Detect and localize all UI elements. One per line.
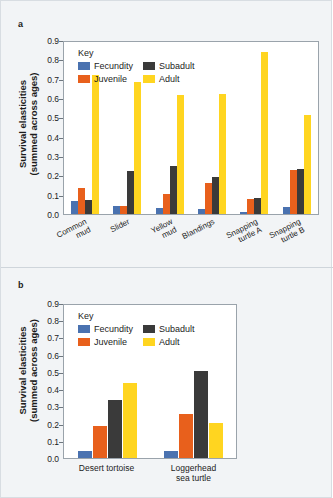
y-tick-label: 0.7 [47, 76, 59, 84]
bar [290, 170, 297, 214]
bar [205, 183, 212, 214]
bar [120, 206, 127, 214]
legend-item: Adult [143, 74, 195, 84]
panel-b-x-tick-labels: Desert tortoiseLoggerheadsea turtle [63, 463, 237, 483]
legend-label: Fecundity [94, 324, 133, 334]
legend-items: FecunditySubadultJuvenileAdult [78, 61, 195, 84]
y-tick-mark [59, 176, 63, 177]
panel-a-legend: Key FecunditySubadultJuvenileAdult [78, 48, 195, 84]
bar [254, 198, 261, 214]
legend-label: Adult [159, 337, 180, 347]
bar [113, 206, 120, 214]
panel-a-x-tick-labels: CommonmudSliderYellowmudBlandingsSnappin… [63, 217, 319, 261]
y-tick-label: 0.8 [47, 317, 59, 325]
y-tick-mark [59, 138, 63, 139]
y-tick-mark [59, 425, 63, 426]
legend-label: Fecundity [94, 61, 133, 71]
legend-items: FecunditySubadultJuvenileAdult [78, 324, 195, 347]
panel-b: b Survival elasticities (summed across a… [1, 267, 333, 497]
x-tick-label-line: Loggerhead [150, 463, 237, 473]
legend-swatch-icon [78, 62, 90, 70]
y-tick-mark [59, 41, 63, 42]
y-tick-mark [59, 321, 63, 322]
x-tick-label-line: Desert tortoise [63, 463, 150, 473]
y-tick-mark [59, 118, 63, 119]
legend-item: Fecundity [78, 61, 133, 71]
legend-swatch-icon [143, 325, 155, 333]
y-tick-mark [59, 338, 63, 339]
legend-item: Adult [143, 337, 195, 347]
bar [240, 212, 247, 214]
bar [163, 194, 170, 214]
y-tick-label: 0.5 [47, 369, 59, 377]
legend-swatch-icon [143, 75, 155, 83]
panel-a-plot-area: Key FecunditySubadultJuvenileAdult [63, 41, 319, 215]
legend-label: Subadult [159, 324, 195, 334]
legend-item: Juvenile [78, 337, 133, 347]
legend-label: Adult [159, 74, 180, 84]
bar [92, 75, 99, 214]
x-tick-label: Desert tortoise [63, 463, 150, 483]
bar [156, 208, 163, 214]
bar [85, 200, 92, 214]
y-tick-label: 0.1 [47, 192, 59, 200]
bar [212, 177, 219, 214]
y-tick-mark [59, 99, 63, 100]
legend-swatch-icon [143, 62, 155, 70]
panel-b-plot-area: Key FecunditySubadultJuvenileAdult [63, 304, 237, 459]
bar-group [191, 42, 233, 214]
y-tick-label: 0.7 [47, 334, 59, 342]
bar-group [276, 42, 318, 214]
y-tick-label: 0.2 [47, 421, 59, 429]
y-tick-label: 0.1 [47, 438, 59, 446]
legend-title: Key [78, 311, 195, 321]
y-tick-mark [59, 80, 63, 81]
bar [297, 169, 304, 214]
legend-item: Juvenile [78, 74, 133, 84]
x-tick-label: Slider [106, 217, 149, 261]
y-tick-mark [59, 356, 63, 357]
legend-label: Juvenile [94, 337, 127, 347]
x-tick-label: Snappingturtle A [234, 217, 277, 261]
bar [108, 400, 122, 458]
legend-item: Subadult [143, 61, 195, 71]
y-tick-label: 0.4 [47, 386, 59, 394]
y-tick-label: 0.6 [47, 95, 59, 103]
bar [179, 414, 193, 458]
bar [134, 82, 141, 214]
legend-label: Subadult [159, 61, 195, 71]
bar [123, 383, 137, 458]
y-tick-mark [59, 442, 63, 443]
x-tick-label-line: sea turtle [150, 473, 237, 483]
y-tick-mark [59, 304, 63, 305]
x-tick-label: Commonmud [63, 217, 106, 261]
y-tick-mark [59, 407, 63, 408]
y-tick-mark [59, 157, 63, 158]
legend-swatch-icon [78, 338, 90, 346]
y-tick-label: 0.8 [47, 56, 59, 64]
legend-swatch-icon [143, 338, 155, 346]
y-tick-label: 0.9 [47, 300, 59, 308]
panel-b-y-tick-labels: 0.90.80.70.60.50.40.30.20.10.0 [35, 304, 59, 459]
y-tick-mark [59, 60, 63, 61]
bar [78, 188, 85, 214]
legend-item: Subadult [143, 324, 195, 334]
bar-group [233, 42, 275, 214]
bar [198, 209, 205, 214]
y-axis-label-line1: Survival elasticities [17, 17, 28, 231]
panel-a-y-tick-labels: 0.90.80.70.60.50.40.30.20.10.0 [35, 41, 59, 215]
y-tick-mark [59, 373, 63, 374]
legend-item: Fecundity [78, 324, 133, 334]
x-tick-label: Loggerheadsea turtle [150, 463, 237, 483]
bar [209, 423, 223, 458]
y-tick-label: 0.4 [47, 134, 59, 142]
bar [93, 426, 107, 458]
bar [247, 199, 254, 214]
bar [194, 371, 208, 458]
y-tick-mark [59, 196, 63, 197]
y-tick-label: 0.9 [47, 37, 59, 45]
panel-a: a Survival elasticities (summed across a… [1, 5, 333, 267]
bar [261, 52, 268, 214]
x-tick-label: Snappingturtle B [276, 217, 319, 261]
bar [283, 207, 290, 214]
